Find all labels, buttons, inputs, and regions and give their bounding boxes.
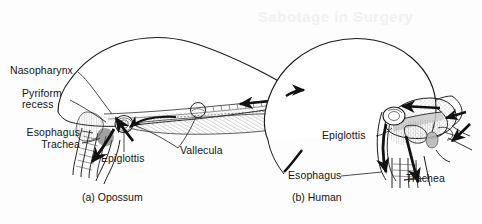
anatomy-figure: mx <box>0 0 482 224</box>
label-trachea-opossum: Trachea <box>0 139 80 151</box>
caption-human: (b) Human <box>292 191 342 203</box>
label-esophagus-opossum: Esophagus <box>0 127 80 139</box>
ghost-bleed-text: Sabotage in Surgery <box>258 8 413 25</box>
human-uvula-mass <box>426 132 438 148</box>
human-larynx <box>383 107 405 125</box>
caption-opossum: (a) Opossum <box>82 191 143 203</box>
label-nasopharynx: Nasopharynx <box>10 65 73 77</box>
label-trachea-human: Trachea <box>406 173 445 185</box>
label-esophagus-human: Esophagus <box>288 170 341 182</box>
label-epiglottis-human: Epiglottis <box>322 130 366 142</box>
label-vallecula: Vallecula <box>180 145 223 157</box>
figure-artwork: mx <box>0 0 482 224</box>
label-epiglottis-opossum: Epiglottis <box>101 153 145 165</box>
label-pyriform-recess-line2: recess <box>22 99 54 111</box>
